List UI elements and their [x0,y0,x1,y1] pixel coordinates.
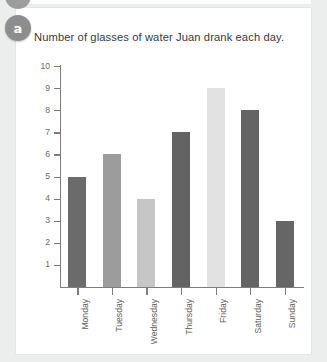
question-card: 10987654321 MondayTuesdayWednesdayThursd… [16,8,311,354]
bar-tuesday [103,154,121,287]
bar-monday [68,177,86,288]
x-axis-label-tuesday: Tuesday [115,299,124,332]
bar-saturday [241,110,259,287]
bar-sunday [276,221,294,287]
chart-title: Number of glasses of water Juan drank ea… [34,31,284,43]
question-badge: a [5,15,31,41]
bar-series [16,8,311,295]
x-axis-label-saturday: Saturday [254,299,263,333]
bar-chart: 10987654321 MondayTuesdayWednesdayThursd… [16,8,311,354]
x-axis-label-friday: Friday [219,299,228,323]
x-axis-label-monday: Monday [81,299,90,330]
previous-card-sliver [16,0,311,4]
page-background: 10987654321 MondayTuesdayWednesdayThursd… [0,0,327,362]
bar-wednesday [137,199,155,287]
question-badge-label: a [14,22,23,35]
bar-thursday [172,132,190,287]
x-axis-label-wednesday: Wednesday [150,299,159,344]
x-axis-label-sunday: Sunday [288,299,297,328]
x-axis-label-thursday: Thursday [185,299,194,335]
bar-friday [207,88,225,287]
